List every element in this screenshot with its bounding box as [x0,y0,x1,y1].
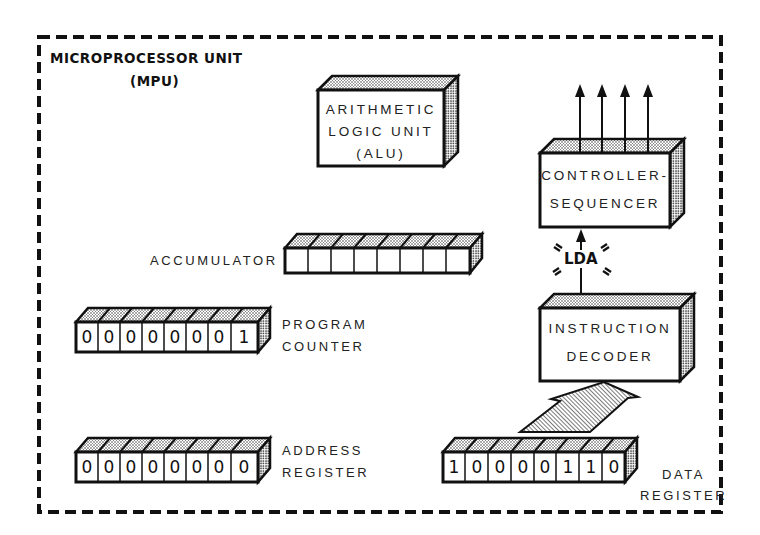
alu-line3: (ALU) [318,143,444,165]
alu-line2: LOGIC UNIT [318,121,444,143]
pc-bit-3: 0 [142,326,164,348]
ar-label-line1: ADDRESS [282,442,369,460]
ar-bit-5: 0 [186,456,208,478]
mpu-subtitle: (MPU) [130,73,179,89]
data-to-decoder-arrow [520,382,638,432]
accumulator-block [285,234,482,273]
decoder-line2: DECODER [540,346,680,368]
dr-bit-1: 0 [466,456,488,478]
dr-bit-4: 0 [534,456,556,478]
ar-bit-4: 0 [164,456,186,478]
program-counter-label: PROGRAM COUNTER [282,316,367,356]
dr-bit-2: 0 [489,456,511,478]
dr-bit-6: 1 [580,456,602,478]
pc-bit-4: 0 [164,326,186,348]
decoder-label: INSTRUCTION DECODER [540,318,680,368]
pc-bit-1: 0 [98,326,120,348]
dr-bit-5: 1 [557,456,579,478]
pc-bit-5: 0 [186,326,208,348]
dr-bit-3: 0 [512,456,534,478]
ar-bit-2: 0 [120,456,142,478]
lda-signal-label: LDA [562,250,600,268]
mpu-title: MICROPROCESSOR UNIT [50,50,243,66]
alu-label: ARITHMETIC LOGIC UNIT (ALU) [318,99,444,165]
pc-bit-0: 0 [76,326,98,348]
pc-bit-2: 0 [120,326,142,348]
ar-bit-0: 0 [76,456,98,478]
ar-bit-1: 0 [98,456,120,478]
dr-bit-7: 0 [603,456,625,478]
dr-bit-0: 1 [443,456,465,478]
controller-line1: CONTROLLER- [540,165,670,187]
ar-label-line2: REGISTER [282,464,369,482]
mpu-diagram [0,0,760,535]
accumulator-label: ACCUMULATOR [150,252,278,270]
ar-bit-6: 0 [208,456,230,478]
address-register-label: ADDRESS REGISTER [282,442,369,482]
pc-bit-6: 0 [208,326,230,348]
alu-line1: ARITHMETIC [318,99,444,121]
data-register-label-line1: DATA [662,466,705,484]
controller-line2: SEQUENCER [540,193,670,215]
pc-label-line2: COUNTER [282,338,367,356]
data-register-label-line2: REGISTER [640,487,727,505]
ar-bit-3: 0 [142,456,164,478]
arrow-heads [575,84,653,97]
pc-label-line1: PROGRAM [282,316,367,334]
pc-bit-7: 1 [233,326,255,348]
controller-label: CONTROLLER- SEQUENCER [540,165,670,215]
ar-bit-7: 0 [233,456,255,478]
decoder-line1: INSTRUCTION [540,318,680,340]
